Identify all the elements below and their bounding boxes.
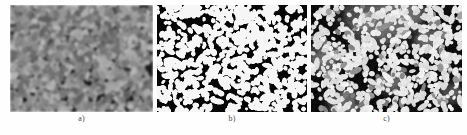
- panel-c-canvas-wrap: [311, 5, 462, 112]
- figure-container: a) b) c): [0, 0, 467, 135]
- panel-a-image: [10, 5, 153, 112]
- panel-c-label: c): [311, 114, 462, 124]
- panel-c-canvas: [311, 5, 462, 112]
- panel-b-canvas-wrap: [157, 5, 307, 112]
- panel-a-label: a): [10, 114, 153, 124]
- panel-c-image: [311, 5, 462, 112]
- panel-b-image: [157, 5, 307, 112]
- panel-a-canvas-wrap: [10, 5, 153, 112]
- panel-b-canvas: [157, 5, 307, 112]
- panel-b-label: b): [157, 114, 307, 124]
- panel-a-canvas: [10, 5, 153, 112]
